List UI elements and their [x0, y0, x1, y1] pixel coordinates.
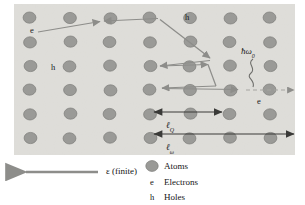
- atom: [24, 132, 37, 143]
- atom: [63, 133, 76, 144]
- legend-item-atoms: Atoms: [140, 158, 198, 174]
- length-omega-label: ℓω: [166, 137, 174, 155]
- hole-label-top: h: [185, 13, 189, 22]
- atom: [144, 60, 157, 71]
- electron-label-top-left: e: [30, 26, 34, 35]
- legend-key-electrons: e: [140, 177, 164, 187]
- legend: Atoms e Electrons h Holes: [140, 158, 198, 204]
- atom: [264, 60, 277, 71]
- atom: [64, 36, 77, 47]
- legend-item-electrons: e Electrons: [140, 174, 198, 189]
- atom: [23, 12, 36, 23]
- legend-item-holes: h Holes: [140, 189, 198, 204]
- atom: [24, 60, 37, 71]
- atom: [64, 84, 77, 95]
- hole-label-left: h: [51, 63, 55, 72]
- atom: [264, 37, 277, 48]
- atom: [104, 85, 117, 96]
- atom: [184, 84, 197, 95]
- atom: [104, 13, 117, 24]
- atom: [104, 132, 117, 143]
- legend-label-electrons: Electrons: [164, 177, 198, 187]
- atom: [104, 60, 117, 71]
- atom: [223, 36, 236, 47]
- phonon-energy-label: ħω0: [241, 41, 255, 59]
- atom: [184, 36, 197, 47]
- atom: [224, 13, 237, 24]
- legend-label-atoms: Atoms: [164, 161, 188, 171]
- atom: [143, 84, 156, 95]
- phonon-energy-symbol: ħω: [241, 46, 252, 56]
- electron-label-right: e: [257, 97, 261, 106]
- atom: [103, 108, 116, 119]
- atom: [63, 61, 76, 72]
- legend-key-holes: h: [140, 192, 164, 202]
- lattice-background: [14, 4, 295, 155]
- atom: [64, 12, 77, 23]
- field-label: ε (finite): [106, 167, 137, 176]
- atom: [144, 37, 157, 48]
- physics-lattice-diagram: e h h e ħω0 ℓQ ℓω ε (finite) Atoms e Ele…: [0, 0, 305, 205]
- atom: [24, 109, 37, 120]
- atom: [23, 84, 36, 95]
- length-omega-subscript: ω: [170, 149, 174, 155]
- atom: [224, 85, 237, 96]
- atom: [264, 109, 277, 120]
- atom: [24, 37, 37, 48]
- atom: [143, 12, 156, 23]
- atom: [184, 108, 197, 119]
- atom: [224, 60, 237, 71]
- atom: [64, 108, 77, 119]
- length-q-subscript: Q: [170, 127, 174, 133]
- atom: [263, 12, 276, 23]
- phonon-energy-subscript: 0: [252, 53, 255, 59]
- atom: [223, 108, 236, 119]
- atom: [144, 109, 157, 120]
- atom: [103, 36, 116, 47]
- length-q-label: ℓQ: [166, 115, 174, 133]
- legend-label-holes: Holes: [164, 192, 185, 202]
